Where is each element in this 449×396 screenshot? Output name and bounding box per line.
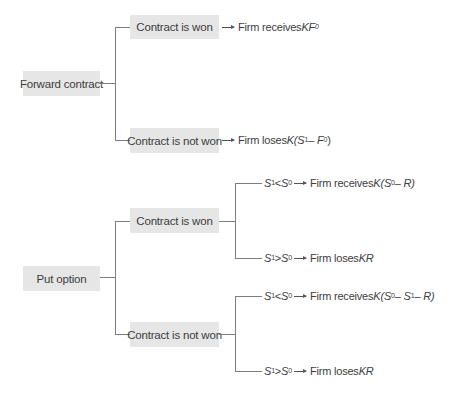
put-option-label: Put option — [37, 273, 87, 285]
arrow-right-icon — [222, 140, 234, 141]
arrow-right-icon — [222, 27, 234, 28]
arrow-right-icon — [294, 183, 306, 184]
put-not-won-branch-1: S1 < S0 Firm receives K(S0 – S1 – R) — [264, 289, 434, 303]
forward-not-won-outcome: Firm loses K(S1 – F0) — [220, 133, 331, 147]
connector — [115, 221, 130, 222]
connector — [115, 27, 116, 140]
forward-contract-label: Forward contract — [20, 78, 103, 90]
put-won-branch-1: S1 < S0 Firm receives K(S0 – R) — [264, 176, 415, 190]
connector — [235, 296, 262, 297]
connector — [235, 258, 262, 259]
forward-won-outcome: Firm receives KF0 — [220, 20, 319, 34]
connector — [219, 221, 235, 222]
put-not-won-branch-2: S1 > S0 Firm loses KR — [264, 364, 374, 378]
connector — [115, 221, 116, 334]
connector — [235, 371, 262, 372]
put-not-won-label: Contract is not won — [127, 329, 222, 341]
put-option-node: Put option — [23, 266, 100, 291]
connector — [219, 334, 235, 335]
put-won-node: Contract is won — [130, 208, 219, 233]
arrow-right-icon — [294, 371, 306, 372]
forward-won-label: Contract is won — [136, 21, 212, 33]
arrow-right-icon — [294, 296, 306, 297]
connector — [235, 183, 262, 184]
forward-won-node: Contract is won — [130, 15, 219, 39]
connector — [235, 183, 236, 259]
put-won-branch-2: S1 > S0 Firm loses KR — [264, 251, 374, 265]
arrow-right-icon — [294, 258, 306, 259]
connector — [235, 296, 236, 372]
put-not-won-node: Contract is not won — [130, 322, 219, 347]
connector — [100, 83, 115, 84]
forward-not-won-node: Contract is not won — [130, 128, 219, 153]
connector — [100, 277, 115, 278]
put-won-label: Contract is won — [136, 215, 212, 227]
forward-not-won-label: Contract is not won — [127, 135, 222, 147]
connector — [115, 27, 130, 28]
forward-contract-node: Forward contract — [23, 71, 100, 96]
